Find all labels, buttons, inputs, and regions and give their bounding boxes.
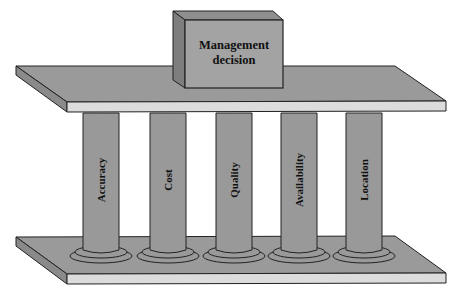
pillar-label-cost: Cost [162, 169, 174, 191]
pillar-label-accuracy: Accuracy [95, 157, 107, 202]
management-decision-box: Management decision [173, 11, 283, 88]
pillar-label-availability: Availability [293, 152, 305, 207]
pillar-label-quality: Quality [228, 162, 240, 198]
pillar-label-location: Location [358, 159, 370, 201]
box-label-line2: decision [212, 53, 255, 67]
pillars-diagram: Accuracy Cost Quality Availability Locat… [0, 0, 458, 296]
box-label-line1: Management [199, 38, 270, 52]
